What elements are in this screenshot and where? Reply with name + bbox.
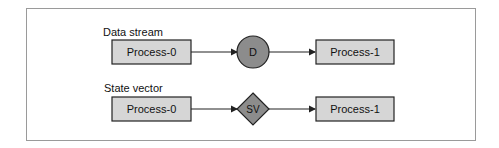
flow-diagram: Process-0 D Process-1 Process-0 SV Proce… (0, 0, 499, 148)
row-data-stream: Process-0 D Process-1 (112, 36, 394, 68)
process-0-label: Process-0 (127, 46, 177, 58)
process-0-label: Process-0 (127, 103, 177, 115)
connector-label-sv: SV (246, 104, 260, 115)
row-state-vector: Process-0 SV Process-1 (112, 93, 394, 125)
process-1-label: Process-1 (330, 46, 380, 58)
process-1-label: Process-1 (330, 103, 380, 115)
connector-label-d: D (249, 46, 257, 58)
